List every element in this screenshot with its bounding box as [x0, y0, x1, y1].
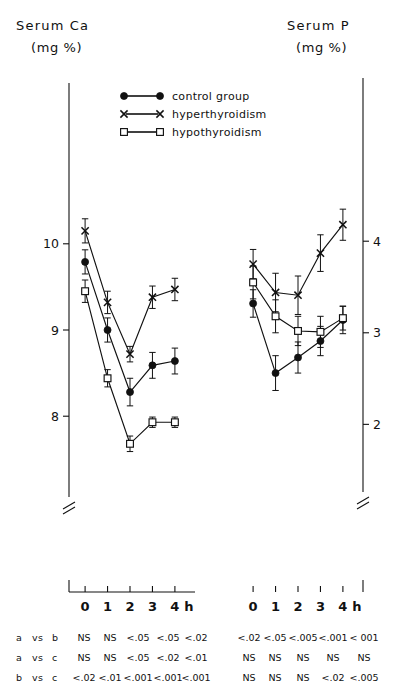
stats-left-r2-c1: NS [77, 652, 90, 663]
legend-control-left-marker-filled-circle [121, 93, 128, 100]
stats-right-r2-c2: NS [268, 652, 281, 663]
serum-p-control-0-marker-filled-circle [250, 300, 257, 307]
serum-ca-x-ticklabel-1: 1 [103, 599, 112, 614]
stats-row-2-group-b: c [52, 652, 58, 663]
serum-ca-control-4-marker-filled-circle [171, 358, 178, 365]
stats-left-r3-c3: <.001 [123, 672, 152, 683]
stats-left-r3-c5: <.001 [181, 672, 210, 683]
legend-label-hypo: hypothyroidism [172, 126, 262, 139]
serum-ca-y-ticklabel-8: 8 [51, 409, 59, 424]
left-axis-title-line2: (mg %) [31, 40, 82, 55]
serum-p-hypo-3-marker-open-square [317, 328, 324, 335]
stats-right-r1-c5: < 001 [349, 632, 378, 643]
right-axis-title-line2: (mg %) [296, 40, 347, 55]
serum-ca-hypo-1-marker-open-square [104, 375, 111, 382]
stats-right-r3-c5: <.005 [349, 672, 378, 683]
stats-right-r1-c1: <.02 [237, 632, 260, 643]
serum-ca-hypo-3-marker-open-square [149, 419, 156, 426]
serum-p-x-ticklabel-4: 4 [338, 599, 347, 614]
stats-right-r1-c3: <.005 [288, 632, 317, 643]
legend-hypo-left-marker-open-square [121, 129, 128, 136]
serum-p-x-unit-label: h [352, 599, 361, 614]
stats-right-r3-c2: NS [268, 672, 281, 683]
stats-right-r2-c4: NS [326, 652, 339, 663]
stats-right-r1-c4: <.001 [318, 632, 347, 643]
stats-row-3-vs: vs [32, 672, 43, 683]
left-axis-title-line1: Serum Ca [16, 18, 89, 33]
serum-p-hypo-1-marker-open-square [272, 313, 279, 320]
stats-left-r1-c5: <.02 [184, 632, 207, 643]
stats-right-r2-c1: NS [242, 652, 255, 663]
serum-ca-x-ticklabel-2: 2 [125, 599, 134, 614]
serum-p-control-2-marker-filled-circle [295, 354, 302, 361]
stats-row-1-group-b: b [52, 632, 58, 643]
serum-ca-control-2-marker-filled-circle [127, 389, 134, 396]
right-axis-title-line1: Serum P [287, 18, 350, 33]
serum-ca-control-0-marker-filled-circle [82, 258, 89, 265]
serum-ca-control-1-marker-filled-circle [104, 327, 111, 334]
serum-ca-y-ticklabel-9: 9 [51, 323, 59, 338]
stats-row-2-group-a: a [16, 652, 22, 663]
serum-p-y-ticklabel-2: 2 [373, 417, 381, 432]
stats-row-2-vs: vs [32, 652, 43, 663]
serum-ca-x-ticklabel-4: 4 [170, 599, 179, 614]
stats-left-r1-c1: NS [77, 632, 90, 643]
stats-left-r3-c4: <.001 [153, 672, 182, 683]
serum-p-y-ticklabel-3: 3 [373, 325, 381, 340]
stats-left-r1-c3: <.05 [126, 632, 149, 643]
stats-row-3-group-b: c [52, 672, 58, 683]
serum-p-x-ticklabel-3: 3 [316, 599, 325, 614]
serum-ca-x-ticklabel-0: 0 [81, 599, 90, 614]
serum-ca-hypo-0-marker-open-square [82, 288, 89, 295]
stats-left-r1-c2: NS [103, 632, 116, 643]
serum-p-hypo-2-marker-open-square [295, 328, 302, 335]
stats-left-r1-c4: <.05 [156, 632, 179, 643]
stats-left-r3-c2: <.01 [98, 672, 121, 683]
serum-p-hypo-4-marker-open-square [339, 315, 346, 322]
serum-ca-control-3-marker-filled-circle [149, 362, 156, 369]
serum-ca-hypo-4-marker-open-square [171, 419, 178, 426]
serum-ca-x-ticklabel-3: 3 [148, 599, 157, 614]
serum-ca-x-unit-label: h [184, 599, 193, 614]
serum-ca-hypo-2-marker-open-square [127, 440, 134, 447]
stats-right-r2-c5: NS [357, 652, 370, 663]
stats-left-r3-c1: <.02 [72, 672, 95, 683]
stats-row-1-group-a: a [16, 632, 22, 643]
legend-control-right-marker-filled-circle [157, 93, 164, 100]
serum-p-control-1-marker-filled-circle [272, 370, 279, 377]
figure-background [0, 0, 405, 697]
serum-p-x-ticklabel-0: 0 [249, 599, 258, 614]
scientific-figure: Serum Ca (mg %) Serum P (mg %) control g… [0, 0, 405, 697]
serum-p-x-ticklabel-1: 1 [271, 599, 280, 614]
stats-left-r2-c2: NS [103, 652, 116, 663]
stats-right-r1-c2: <.05 [263, 632, 286, 643]
stats-row-1-vs: vs [32, 632, 43, 643]
legend-label-control: control group [172, 90, 249, 103]
legend-hypo-right-marker-open-square [157, 129, 164, 136]
serum-p-x-ticklabel-2: 2 [293, 599, 302, 614]
figure-canvas: Serum Ca (mg %) Serum P (mg %) control g… [0, 0, 405, 697]
stats-right-r2-c3: NS [296, 652, 309, 663]
serum-ca-y-ticklabel-10: 10 [43, 236, 59, 251]
stats-row-3-group-a: b [16, 672, 22, 683]
stats-left-r2-c4: <.02 [156, 652, 179, 663]
legend-label-hyper: hyperthyroidism [172, 108, 267, 121]
stats-right-r3-c3: NS [296, 672, 309, 683]
stats-right-r3-c4: <.02 [321, 672, 344, 683]
stats-right-r3-c1: NS [242, 672, 255, 683]
serum-p-hypo-0-marker-open-square [250, 279, 257, 286]
serum-p-y-ticklabel-4: 4 [373, 234, 381, 249]
stats-left-r2-c5: <.01 [184, 652, 207, 663]
stats-left-r2-c3: <.05 [126, 652, 149, 663]
